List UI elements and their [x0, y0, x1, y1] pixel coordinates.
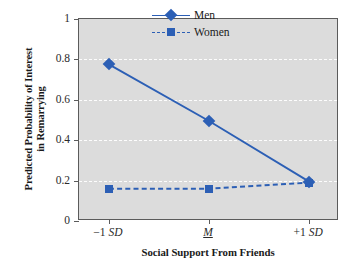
y-axis-title-line-1: Predicted Probability of Interest: [23, 48, 35, 191]
legend-label: Men: [194, 9, 215, 21]
y-axis-tick-label: 0.4: [42, 133, 70, 145]
y-axis-tick-label: 1: [42, 12, 70, 24]
legend-item-women: Women: [152, 23, 256, 40]
y-axis-tick-label: 0.8: [42, 52, 70, 64]
x-axis-title: Social Support From Friends: [78, 246, 338, 258]
x-axis-tick-label: −1 SD: [93, 226, 122, 238]
diamond-marker: [165, 8, 178, 21]
plot-inner: [79, 19, 337, 219]
x-axis-tick-labels: −1 SDM+1 SD: [78, 226, 338, 244]
legend-key-women: [152, 25, 190, 39]
data-point-women-0: [105, 185, 113, 193]
x-axis-tick-label: +1 SD: [294, 226, 323, 238]
chart-figure: Predicted Probability of Interest in Rem…: [0, 0, 355, 270]
y-axis-tick-mark: [74, 221, 79, 222]
x-axis-tick-label: M: [203, 226, 213, 238]
y-axis-tick-label: 0.2: [42, 174, 70, 186]
y-axis-tick-label: 0: [42, 214, 70, 226]
legend-label: Women: [194, 26, 229, 38]
legend-item-men: Men: [152, 6, 256, 23]
data-point-women-2: [305, 179, 313, 187]
square-marker: [167, 28, 175, 36]
y-axis-tick-labels: 10.80.60.40.20: [42, 0, 70, 270]
data-point-women-1: [205, 185, 213, 193]
plot-area: [78, 18, 338, 220]
chart-legend: MenWomen: [152, 6, 256, 40]
legend-key-men: [152, 8, 190, 22]
y-axis-tick-label: 0.6: [42, 93, 70, 105]
